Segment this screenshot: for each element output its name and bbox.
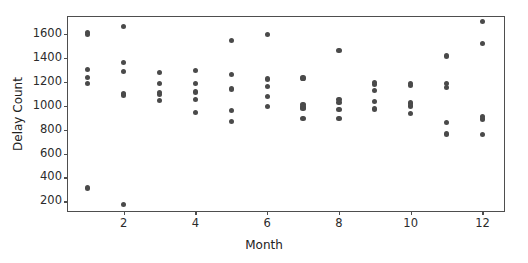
x-tick-mark — [411, 211, 412, 215]
scatter-point — [372, 82, 377, 87]
plot-area: 2004006008001000120014001600 24681012 — [67, 16, 505, 212]
x-tick-label: 8 — [335, 218, 342, 230]
x-tick-label: 10 — [403, 218, 418, 230]
scatter-point — [229, 72, 234, 77]
scatter-point — [336, 116, 341, 121]
scatter-plot-figure: 2004006008001000120014001600 24681012 De… — [0, 0, 528, 263]
y-tick-mark — [64, 177, 68, 178]
scatter-point — [85, 67, 90, 72]
scatter-point — [480, 116, 485, 121]
scatter-point — [85, 32, 90, 37]
y-tick-mark — [64, 201, 68, 202]
scatter-point — [229, 119, 234, 124]
scatter-point — [408, 111, 413, 116]
scatter-point — [121, 24, 126, 29]
scatter-point — [157, 98, 162, 103]
scatter-point — [372, 106, 377, 111]
scatter-point — [157, 70, 162, 75]
scatter-point — [408, 103, 413, 108]
x-axis-label: Month — [0, 238, 528, 252]
scatter-point — [444, 53, 449, 58]
scatter-point — [265, 32, 270, 37]
scatter-point — [408, 83, 413, 88]
scatter-point — [300, 75, 305, 80]
x-tick-mark — [482, 211, 483, 215]
scatter-point — [193, 81, 198, 86]
scatter-point — [265, 94, 270, 99]
y-tick-mark — [64, 34, 68, 35]
scatter-point — [193, 89, 198, 94]
scatter-point — [121, 92, 126, 97]
y-tick-label: 1600 — [33, 28, 62, 40]
y-tick-mark — [64, 154, 68, 155]
scatter-point — [85, 81, 90, 86]
y-tick-label: 400 — [40, 172, 62, 184]
scatter-point — [336, 107, 341, 112]
scatter-point — [265, 76, 270, 81]
scatter-point — [157, 92, 162, 97]
y-tick-label: 1000 — [33, 100, 62, 112]
x-tick-label: 2 — [120, 218, 127, 230]
scatter-point — [444, 131, 449, 136]
scatter-point — [229, 108, 234, 113]
scatter-point — [372, 88, 377, 93]
scatter-point — [300, 106, 305, 111]
scatter-point — [300, 116, 305, 121]
x-tick-label: 6 — [263, 218, 270, 230]
y-tick-mark — [64, 106, 68, 107]
scatter-point — [336, 100, 341, 105]
y-tick-mark — [64, 130, 68, 131]
scatter-point — [372, 99, 377, 104]
scatter-point — [265, 104, 270, 109]
y-tick-label: 200 — [40, 196, 62, 208]
x-tick-mark — [124, 211, 125, 215]
scatter-point — [121, 69, 126, 74]
scatter-point — [85, 185, 90, 190]
scatter-point — [336, 48, 341, 53]
scatter-point — [444, 85, 449, 90]
y-tick-label: 1400 — [33, 52, 62, 64]
x-tick-mark — [339, 211, 340, 215]
scatter-point — [265, 84, 270, 89]
scatter-point — [480, 132, 485, 137]
y-tick-label: 800 — [40, 124, 62, 136]
scatter-point — [157, 81, 162, 86]
scatter-point — [193, 68, 198, 73]
scatter-point — [193, 97, 198, 102]
scatter-point — [193, 110, 198, 115]
data-points-layer — [68, 17, 504, 211]
scatter-point — [229, 38, 234, 43]
scatter-point — [121, 202, 126, 207]
x-tick-label: 4 — [192, 218, 199, 230]
y-tick-label: 600 — [40, 148, 62, 160]
scatter-point — [121, 60, 126, 65]
x-tick-mark — [195, 211, 196, 215]
scatter-point — [229, 86, 234, 91]
y-tick-mark — [64, 58, 68, 59]
x-tick-mark — [267, 211, 268, 215]
y-axis-label: Delay Count — [11, 77, 25, 151]
scatter-point — [480, 41, 485, 46]
x-tick-label: 12 — [475, 218, 490, 230]
scatter-point — [480, 19, 485, 24]
scatter-point — [444, 120, 449, 125]
y-tick-mark — [64, 82, 68, 83]
scatter-point — [85, 75, 90, 80]
y-tick-label: 1200 — [33, 76, 62, 88]
